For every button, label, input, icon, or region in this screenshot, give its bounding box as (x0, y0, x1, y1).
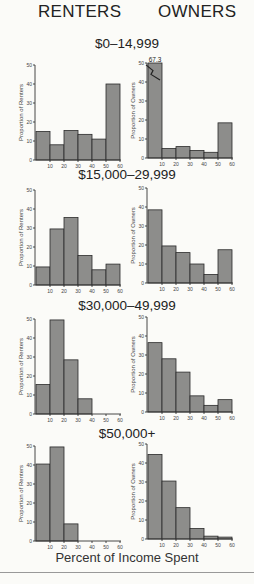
x-tick-label: 60 (229, 161, 235, 167)
y-tick-label: 20 (138, 242, 144, 248)
histogram-bar (36, 464, 50, 541)
y-tick-label: 0 (29, 411, 32, 417)
x-tick-label: 10 (47, 417, 53, 423)
y-tick-label: 0 (141, 280, 144, 286)
histogram-bar (50, 229, 64, 285)
histogram-bar (64, 218, 78, 285)
histogram-bar (190, 150, 204, 158)
histogram-bar (64, 131, 78, 160)
y-tick-label: 10 (138, 136, 144, 142)
y-tick-label: 40 (138, 333, 144, 339)
histogram-bar (36, 385, 50, 414)
y-tick-label: 30 (26, 481, 32, 487)
histogram-bar (204, 152, 218, 158)
y-tick-label: 10 (138, 390, 144, 396)
y-axis-label: Proportion of Renters (18, 84, 24, 141)
x-tick-label: 50 (103, 417, 109, 423)
x-tick-label: 40 (201, 161, 207, 167)
x-tick-label: 60 (117, 288, 123, 294)
histogram-bar (106, 264, 120, 285)
x-tick-label: 50 (215, 542, 221, 548)
y-axis-label: Proportion of Renters (18, 465, 24, 522)
x-tick-label: 50 (103, 163, 109, 169)
histogram-bar (162, 481, 176, 539)
histogram-bar (204, 405, 218, 412)
histogram-bar (190, 264, 204, 283)
x-tick-label: 30 (187, 286, 193, 292)
y-axis-label: Proportion of Renters (18, 338, 24, 395)
y-tick-label: 30 (138, 98, 144, 104)
x-tick-label: 40 (201, 542, 207, 548)
histogram-bar (106, 84, 120, 160)
x-tick-label: 40 (201, 286, 207, 292)
y-tick-label: 20 (26, 500, 32, 506)
x-tick-label: 10 (159, 542, 165, 548)
x-tick-label: 30 (75, 417, 81, 423)
y-tick-label: 40 (26, 81, 32, 87)
histogram-bar (204, 274, 218, 283)
histogram-bar (78, 134, 92, 160)
y-tick-label: 50 (138, 185, 144, 191)
x-tick-label: 40 (89, 163, 95, 169)
histogram-bar (50, 145, 64, 160)
y-tick-label: 20 (26, 119, 32, 125)
histogram-bar (162, 149, 176, 159)
y-tick-label: 20 (26, 244, 32, 250)
x-tick-label: 10 (47, 163, 53, 169)
histogram-bar (78, 399, 92, 414)
bottom-rule-divider (0, 572, 254, 573)
y-tick-label: 0 (141, 155, 144, 161)
y-tick-label: 50 (26, 316, 32, 322)
histogram-bar (218, 400, 232, 412)
histogram-bar (78, 256, 92, 285)
y-axis-label: Proportion of Owners (130, 463, 136, 520)
y-tick-label: 30 (138, 352, 144, 358)
x-tick-label: 20 (61, 163, 67, 169)
histogram-bar (50, 447, 64, 541)
y-tick-label: 0 (29, 282, 32, 288)
x-tick-label: 20 (61, 288, 67, 294)
histogram-bar (92, 139, 106, 160)
y-axis-label: Proportion of Owners (130, 82, 136, 139)
histogram-bar (148, 343, 162, 412)
x-tick-label: 60 (229, 286, 235, 292)
x-tick-label: 50 (215, 415, 221, 421)
x-tick-label: 60 (229, 542, 235, 548)
y-tick-label: 10 (26, 263, 32, 269)
x-tick-label: 30 (75, 288, 81, 294)
histogram-bar (50, 320, 64, 414)
x-tick-label: 30 (187, 161, 193, 167)
histogram-bar (64, 524, 78, 541)
bar-value-annotation: 67.3 (149, 56, 162, 63)
y-tick-label: 50 (26, 62, 32, 68)
y-tick-label: 10 (26, 392, 32, 398)
y-tick-label: 10 (138, 261, 144, 267)
y-tick-label: 0 (141, 409, 144, 415)
y-tick-label: 10 (138, 517, 144, 523)
y-tick-label: 30 (138, 223, 144, 229)
y-tick-label: 50 (26, 187, 32, 193)
histogram-bar (92, 270, 106, 285)
x-tick-label: 20 (61, 417, 67, 423)
histogram-bar (176, 372, 190, 412)
y-tick-label: 0 (29, 157, 32, 163)
histogram-bar (36, 132, 50, 161)
x-tick-label: 40 (201, 415, 207, 421)
histogram-bar (176, 508, 190, 539)
y-tick-label: 10 (26, 519, 32, 525)
y-tick-label: 20 (138, 498, 144, 504)
histogram-bar (36, 267, 50, 285)
x-tick-label: 60 (229, 415, 235, 421)
x-tick-label: 20 (173, 415, 179, 421)
x-tick-label: 10 (159, 415, 165, 421)
x-tick-label: 30 (187, 542, 193, 548)
y-tick-label: 20 (26, 373, 32, 379)
y-tick-label: 40 (26, 335, 32, 341)
x-tick-label: 50 (215, 161, 221, 167)
histogram-bar (64, 360, 78, 414)
histogram-bar (176, 253, 190, 283)
y-tick-label: 40 (138, 79, 144, 85)
histogram-bar (176, 147, 190, 158)
y-tick-label: 30 (26, 225, 32, 231)
x-tick-label: 30 (187, 415, 193, 421)
